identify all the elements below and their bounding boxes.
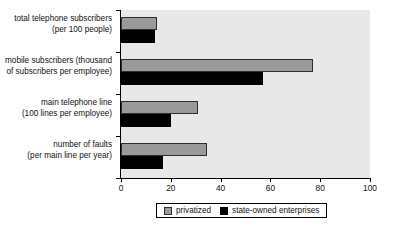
x-axis-tick-label: 80 [305,183,335,193]
legend-swatch-privatized-icon [164,207,172,215]
bar-privatized [121,101,198,114]
x-axis-tick-label: 20 [156,183,186,193]
bar-state-owned [121,156,163,169]
category-label-mobile-subscribers: mobile subscribers (thousand of subscrib… [0,56,112,77]
category-label-line2: (per main line per year) [0,151,112,162]
x-axis-tick [121,178,122,182]
category-label-line1: total telephone subscribers [14,14,112,23]
x-axis-tick-label: 60 [255,183,285,193]
bar-group-total-telephone-subscribers [121,10,370,52]
y-axis-tick [116,136,121,137]
category-label-line1: number of faults [53,140,112,149]
bar-group-number-of-faults [121,136,370,178]
x-axis-tick [320,178,321,182]
bar-privatized [121,143,207,156]
category-label-line1: main telephone line [41,98,112,107]
x-axis-tick-label: 40 [206,183,236,193]
x-axis-tick-label: 0 [106,183,136,193]
y-axis-tick [116,10,121,11]
x-axis-tick [221,178,222,182]
plot-area [121,10,370,178]
category-label-line2: (100 lines per employee) [0,109,112,120]
x-axis-tick [370,178,371,182]
x-axis-line [120,178,371,179]
bar-state-owned [121,114,171,127]
category-label-line2: (per 100 people) [0,25,112,36]
y-axis-tick [116,52,121,53]
x-axis-tick [270,178,271,182]
y-axis-tick [116,94,121,95]
bar-privatized [121,17,157,30]
legend-label-privatized: privatized [176,206,211,215]
legend-label-state-owned-enterprises: state-owned enterprises [232,206,319,215]
category-label-line1: mobile subscribers (thousand [5,56,112,65]
x-axis-tick-label: 100 [355,183,385,193]
bar-state-owned [121,30,155,43]
legend-item-state-owned-enterprises[interactable]: state-owned enterprises [220,206,319,215]
bar-group-main-telephone-line [121,94,370,136]
x-axis-tick [171,178,172,182]
bar-group-mobile-subscribers [121,52,370,94]
legend-item-privatized[interactable]: privatized [164,206,211,215]
category-label-number-of-faults: number of faults (per main line per year… [0,140,112,161]
category-label-main-telephone-line: main telephone line (100 lines per emplo… [0,98,112,119]
legend: privatized state-owned enterprises [156,203,327,218]
bar-state-owned [121,72,263,85]
category-axis-labels: total telephone subscribers (per 100 peo… [0,10,116,178]
category-label-total-telephone-subscribers: total telephone subscribers (per 100 peo… [0,14,112,35]
category-label-line2: of subscribers per employee) [0,67,112,78]
bar-chart: total telephone subscribers (per 100 peo… [0,0,403,235]
bar-privatized [121,59,313,72]
legend-swatch-state-owned-icon [220,207,228,215]
